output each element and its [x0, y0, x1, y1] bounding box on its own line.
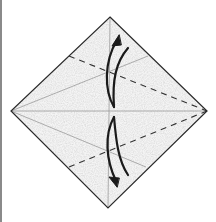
origami-diagram: [0, 0, 216, 222]
